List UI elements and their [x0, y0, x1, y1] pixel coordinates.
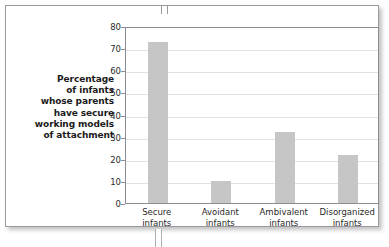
- y-axis-title-line: Percentage: [16, 74, 114, 85]
- bar: [148, 42, 168, 204]
- y-axis-title-line: of infants: [16, 85, 114, 96]
- bar-series: [126, 28, 378, 203]
- y-axis-title-line: working models: [16, 119, 114, 130]
- y-tick-mark: [121, 71, 125, 72]
- x-tick-label: Disorganizedinfants: [308, 207, 386, 228]
- y-axis-tick-labels: 01020304050607080: [101, 27, 121, 204]
- y-tick-mark: [121, 160, 125, 161]
- bar: [275, 132, 295, 203]
- y-tick-label: 80: [101, 23, 121, 32]
- x-tick-label-line: Disorganized: [308, 207, 386, 218]
- y-tick-mark: [121, 93, 125, 94]
- y-axis-title-line: of attachment: [16, 130, 114, 141]
- y-tick-mark: [121, 116, 125, 117]
- bar: [338, 155, 358, 203]
- y-axis-title: Percentage of infants whose parents have…: [16, 74, 114, 141]
- figure-frame: Percentage of infants whose parents have…: [5, 5, 379, 227]
- y-axis-title-line: whose parents: [16, 96, 114, 107]
- y-tick-label: 50: [101, 89, 121, 98]
- x-axis-tick-labels: SecureinfantsAvoidantinfantsAmbivalentin…: [125, 207, 379, 237]
- y-tick-label: 20: [101, 155, 121, 164]
- bar: [211, 181, 231, 203]
- x-tick-label-line: infants: [308, 218, 386, 229]
- binding-notch-top: [161, 6, 168, 14]
- y-tick-label: 10: [101, 177, 121, 186]
- y-tick-mark: [121, 49, 125, 50]
- y-tick-mark: [121, 182, 125, 183]
- y-axis-title-line: have secure: [16, 108, 114, 119]
- y-tick-mark: [121, 204, 125, 205]
- y-tick-mark: [121, 27, 125, 28]
- binding-notch-bottom: [155, 229, 162, 247]
- y-tick-label: 40: [101, 111, 121, 120]
- plot-area: [125, 27, 379, 204]
- y-tick-label: 70: [101, 45, 121, 54]
- y-tick-label: 60: [101, 67, 121, 76]
- y-tick-label: 30: [101, 133, 121, 142]
- y-tick-mark: [121, 138, 125, 139]
